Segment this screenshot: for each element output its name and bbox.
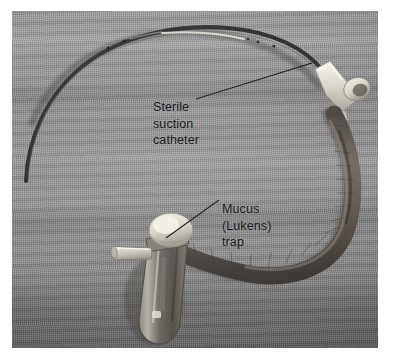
- label-sterile-suction-catheter: Sterile suction catheter: [153, 99, 199, 149]
- label-line: suction: [153, 116, 199, 133]
- photo-vignette: [12, 11, 378, 348]
- label-mucus-lukens-trap: Mucus (Lukens) trap: [222, 201, 271, 251]
- label-line: catheter: [153, 132, 199, 149]
- label-line: Mucus: [222, 201, 271, 218]
- label-line: Sterile: [153, 99, 199, 116]
- photograph: Sterile suction catheter Mucus (Lukens) …: [12, 11, 378, 348]
- figure-container: Sterile suction catheter Mucus (Lukens) …: [0, 0, 396, 364]
- label-line: trap: [222, 234, 271, 251]
- label-line: (Lukens): [222, 218, 271, 235]
